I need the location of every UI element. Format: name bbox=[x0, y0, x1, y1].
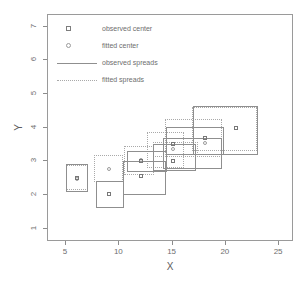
fitted-center-marker bbox=[203, 141, 207, 145]
x-axis-tick bbox=[278, 241, 279, 245]
x-axis-tick-label: 10 bbox=[108, 248, 128, 256]
observed-center-marker bbox=[203, 136, 207, 140]
legend-item-label: observed spreads bbox=[102, 58, 158, 67]
legend-item-label: fitted spreads bbox=[102, 75, 144, 84]
x-axis-tick bbox=[65, 241, 66, 245]
x-axis-tick bbox=[172, 241, 173, 245]
x-axis-tick-label: 25 bbox=[268, 248, 288, 256]
circle-icon bbox=[66, 43, 71, 48]
y-axis-tick-label: 6 bbox=[30, 52, 38, 66]
dotted-line-icon bbox=[57, 80, 97, 81]
legend-item-label: observed center bbox=[102, 24, 152, 33]
observed-center-marker bbox=[171, 159, 175, 163]
legend-square-marker-icon bbox=[56, 21, 98, 37]
legend-solid-line-icon bbox=[56, 55, 98, 71]
solid-line-icon bbox=[57, 63, 97, 64]
y-axis-tick-label: 3 bbox=[30, 153, 38, 167]
observed-center-marker bbox=[139, 159, 143, 163]
fitted-center-marker bbox=[171, 147, 175, 151]
observed-center-marker bbox=[139, 174, 143, 178]
x-axis-tick-label: 20 bbox=[215, 248, 235, 256]
y-axis-tick-label: 2 bbox=[30, 187, 38, 201]
legend-item: observed spreads bbox=[56, 55, 176, 71]
x-axis-title: X bbox=[164, 261, 176, 272]
chart-legend: observed centerfitted centerobserved spr… bbox=[56, 21, 176, 93]
observed-center-marker bbox=[107, 192, 111, 196]
legend-item: fitted center bbox=[56, 38, 176, 54]
fitted-center-marker bbox=[107, 167, 111, 171]
x-axis-tick bbox=[118, 241, 119, 245]
y-axis-tick-label: 4 bbox=[30, 120, 38, 134]
observed-center-marker bbox=[234, 126, 238, 130]
plot-area: observed centerfitted centerobserved spr… bbox=[47, 14, 293, 241]
y-axis-tick-label: 7 bbox=[30, 19, 38, 33]
observed-center-marker bbox=[171, 142, 175, 146]
chart-root: 1234567 510152025 Y X observed centerfit… bbox=[0, 0, 308, 284]
legend-item: fitted spreads bbox=[56, 72, 176, 88]
legend-circle-marker-icon bbox=[56, 38, 98, 54]
y-axis-tick-label: 1 bbox=[30, 221, 38, 235]
legend-item-label: fitted center bbox=[102, 41, 139, 50]
x-axis-tick bbox=[225, 241, 226, 245]
x-axis-tick-label: 5 bbox=[55, 248, 75, 256]
legend-item: observed center bbox=[56, 21, 176, 37]
y-axis-title: Y bbox=[13, 121, 24, 133]
square-icon bbox=[66, 26, 71, 31]
observed-spread-rect bbox=[193, 106, 258, 154]
legend-dotted-line-icon bbox=[56, 72, 98, 88]
observed-center-marker bbox=[75, 176, 79, 180]
y-axis-tick-label: 5 bbox=[30, 86, 38, 100]
x-axis-tick-label: 15 bbox=[162, 248, 182, 256]
